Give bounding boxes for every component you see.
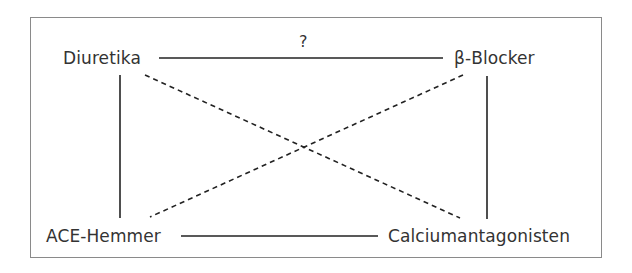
node-diuretika: Diuretika (63, 48, 141, 68)
node-calciumantagonisten: Calciumantagonisten (388, 226, 570, 246)
node-ace-hemmer: ACE-Hemmer (46, 226, 161, 246)
node-beta-blocker: β-Blocker (454, 48, 535, 68)
edge-label-question: ? (299, 33, 308, 51)
edge-diuretika-calcium-dashed (145, 75, 460, 218)
edge-betablocker-acehemmer-dashed (150, 75, 463, 217)
